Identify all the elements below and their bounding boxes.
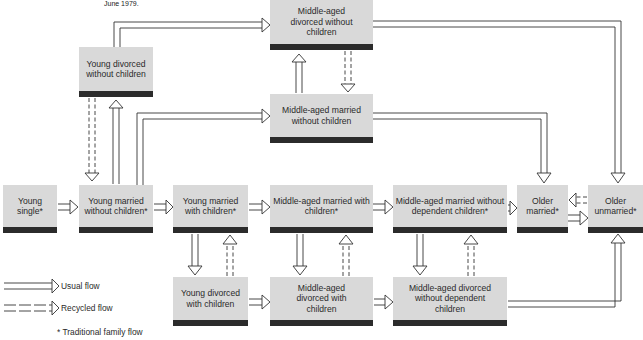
arrow-ydwc-to-madwc bbox=[249, 295, 270, 309]
arrow-mamndc-to-madndc bbox=[413, 234, 427, 275]
node-label: Older unmarried* bbox=[588, 196, 643, 217]
legend-usual-flow-label: Usual flow bbox=[61, 281, 100, 291]
node-young-married-with-children: Young married with children* bbox=[173, 185, 248, 233]
arrow-older-unmarried-to-older-married-recycled bbox=[569, 193, 587, 207]
arrow-no-dependent-to-older-married bbox=[508, 201, 517, 215]
node-older-unmarried: Older unmarried* bbox=[588, 185, 643, 233]
node-label: Middle-aged divorced without children bbox=[285, 6, 359, 38]
node-label: Young married with children* bbox=[173, 196, 248, 217]
node-middle-aged-married-without-children: Middle-aged married without children bbox=[270, 94, 373, 143]
arrow-older-married-to-older-unmarried bbox=[568, 211, 588, 225]
node-label: Young single* bbox=[10, 196, 50, 217]
node-label: Young divorced without children bbox=[79, 59, 153, 80]
arrow-ymnc-to-mamnc bbox=[137, 109, 270, 185]
node-middle-aged-divorced-with-children: Middle-aged divorced with children bbox=[270, 277, 373, 326]
node-older-married: Older married* bbox=[517, 185, 568, 233]
arrow-mamwc-to-madwc bbox=[293, 234, 307, 275]
node-young-married-without-children: Young married without children* bbox=[79, 185, 153, 233]
arrow-madnc-to-older-unmarried bbox=[373, 21, 625, 183]
arrow-middle-with-children-to-no-dependent bbox=[373, 200, 393, 214]
legend-traditional-note: * Traditional family flow bbox=[57, 327, 143, 337]
node-middle-aged-married-with-children: Middle-aged married with children* bbox=[270, 185, 373, 233]
arrow-ydnc-to-madnc bbox=[114, 18, 270, 47]
node-middle-aged-married-without-dependent-children: Middle-aged married without dependent ch… bbox=[393, 185, 507, 233]
node-young-single: Young single* bbox=[3, 185, 57, 233]
arrow-madndc-to-mamndc-recycled bbox=[464, 235, 478, 276]
node-label: Young divorced with children bbox=[173, 288, 248, 309]
arrow-madwc-to-madndc bbox=[374, 295, 393, 309]
legend-recycled-flow-label: Recycled flow bbox=[61, 303, 113, 313]
caption-date: June 1979. bbox=[104, 0, 139, 7]
arrow-madnc-to-mamnc-recycled bbox=[341, 51, 355, 92]
node-label: Young married without children* bbox=[79, 196, 153, 217]
node-label: Middle-aged married with children* bbox=[270, 196, 373, 217]
node-label: Middle-aged married without children bbox=[270, 105, 373, 126]
arrow-ydnc-to-ymnc-recycled bbox=[85, 98, 99, 181]
node-label: Middle-aged divorced without dependent c… bbox=[402, 283, 498, 315]
node-label: Middle-aged married without dependent ch… bbox=[393, 196, 507, 217]
arrow-ymwc-to-ydwc bbox=[188, 234, 202, 275]
arrow-single-to-married-no-children bbox=[58, 200, 78, 214]
arrow-madndc-to-older-unmarried bbox=[508, 234, 625, 307]
arrow-mamnc-to-older-married bbox=[373, 113, 551, 183]
arrow-madwc-to-mamwc-recycled bbox=[339, 235, 353, 276]
arrow-young-with-children-to-middle-with-children bbox=[249, 200, 270, 214]
arrow-ydwc-to-ymwc-recycled bbox=[223, 235, 237, 276]
node-young-divorced-with-children: Young divorced with children bbox=[173, 277, 248, 326]
node-label: Middle-aged divorced with children bbox=[288, 283, 356, 315]
arrow-mamnc-to-madnc bbox=[292, 54, 306, 93]
node-middle-aged-divorced-without-dependent-children: Middle-aged divorced without dependent c… bbox=[393, 277, 507, 326]
node-middle-aged-divorced-without-children: Middle-aged divorced without children bbox=[270, 0, 373, 50]
legend-usual-flow-icon bbox=[4, 279, 59, 293]
legend-recycled-flow-icon bbox=[4, 301, 59, 315]
node-young-divorced-without-children: Young divorced without children bbox=[79, 47, 153, 97]
arrow-ymnc-to-ydnc bbox=[109, 100, 123, 184]
node-label: Older married* bbox=[520, 196, 566, 217]
arrow-married-no-children-to-with-children bbox=[154, 200, 173, 214]
